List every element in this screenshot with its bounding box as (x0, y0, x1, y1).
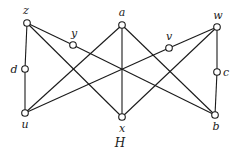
edge-w-v (169, 27, 217, 48)
vertex-label: a (119, 6, 126, 19)
vertex-circle (22, 66, 29, 73)
node-c: c (214, 66, 229, 79)
vertex-circle (166, 45, 173, 52)
vertex-label: b (212, 120, 219, 133)
vertex-circle (212, 112, 219, 119)
vertex-circle (22, 110, 29, 117)
edge-c-b (215, 72, 217, 115)
edge-z-d (25, 23, 27, 69)
vertex-label: w (213, 9, 223, 22)
vertex-circle (24, 20, 31, 27)
node-u: u (21, 110, 28, 131)
vertex-circle (119, 114, 126, 121)
vertex-circle (214, 69, 221, 76)
graph-title: H (114, 136, 126, 150)
nodes: zyavwdcuxb (10, 4, 229, 135)
edges (25, 23, 217, 117)
node-a: a (119, 6, 126, 28)
vertex-circle (70, 42, 77, 49)
node-b: b (212, 112, 220, 133)
vertex-circle (119, 22, 126, 29)
node-v: v (166, 30, 173, 51)
vertex-label: v (166, 30, 173, 43)
vertex-label: x (119, 122, 126, 135)
node-y: y (70, 27, 78, 48)
vertex-label: c (223, 66, 229, 79)
edge-z-y (27, 23, 73, 45)
vertex-label: y (70, 27, 78, 40)
vertex-label: z (22, 4, 29, 17)
edge-y-b (73, 45, 215, 115)
vertex-label: u (21, 118, 28, 131)
graph-diagram: zyavwdcuxb H (0, 0, 235, 161)
node-w: w (213, 9, 223, 30)
vertex-circle (214, 24, 221, 31)
node-z: z (22, 4, 30, 26)
vertex-label: d (10, 63, 17, 76)
edge-v-u (25, 48, 169, 113)
node-x: x (119, 114, 126, 135)
